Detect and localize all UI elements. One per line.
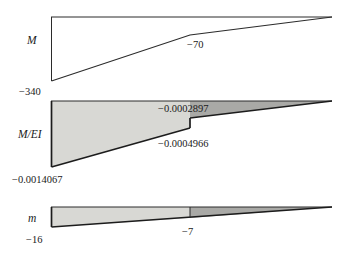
moment-diagram-panel: M −70 −340 — [19, 17, 332, 97]
virtual-moment-left-end-value-label: −16 — [26, 234, 42, 245]
curvature-right-start-value-label: −0.0002897 — [158, 103, 209, 114]
moment-left-end-value-label: −340 — [19, 86, 41, 97]
moment-axis-label: M — [26, 34, 38, 46]
virtual-moment-axis-label: m — [28, 212, 36, 224]
curvature-left-end-segment-value-label: −0.0004966 — [158, 138, 209, 149]
virtual-moment-interior-value-label: −7 — [182, 226, 193, 237]
virtual-moment-left-region-fill — [52, 207, 191, 227]
moment-kink-value-label: −70 — [187, 39, 203, 50]
curvature-axis-label: M/EI — [17, 128, 43, 140]
bending-moment-figure: M −70 −340 M/EI −0.0002897 — [0, 0, 338, 261]
figure-root: M −70 −340 M/EI −0.0002897 — [0, 0, 338, 261]
virtual-moment-diagram-panel: m −7 −16 — [26, 207, 332, 245]
curvature-left-end-value-label: −0.0014067 — [12, 174, 63, 185]
curvature-diagram-panel: M/EI −0.0002897 −0.0004966 −0.0014067 — [12, 101, 332, 185]
